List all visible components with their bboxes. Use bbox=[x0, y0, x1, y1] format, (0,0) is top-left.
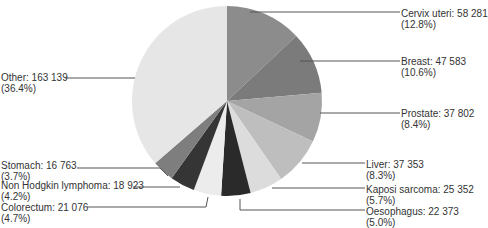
label-colorectum-value: Colorectum: 21 076 bbox=[1, 202, 88, 213]
leader-line bbox=[77, 168, 168, 176]
label-kaposi-sarcoma-pct: (5.7%) bbox=[366, 195, 474, 206]
leader-line bbox=[240, 199, 365, 210]
label-prostate: Prostate: 37 802(8.4%) bbox=[401, 108, 474, 130]
label-liver-pct: (8.3%) bbox=[366, 170, 424, 181]
pie-slices bbox=[132, 6, 322, 196]
label-stomach: Stomach: 16 763(3.7%) bbox=[1, 160, 77, 182]
label-non-hodgkin-lymphoma-pct: (4.2%) bbox=[1, 191, 144, 202]
label-cervix-uteri: Cervix uteri: 58 281(12.8%) bbox=[401, 8, 488, 30]
label-breast-pct: (10.6%) bbox=[401, 67, 466, 78]
label-breast: Breast: 47 583(10.6%) bbox=[401, 56, 466, 78]
label-non-hodgkin-lymphoma: Non Hodgkin lymphoma: 18 923(4.2%) bbox=[1, 180, 144, 202]
label-liver: Liver: 37 353(8.3%) bbox=[366, 159, 424, 181]
label-cervix-uteri-pct: (12.8%) bbox=[401, 19, 488, 30]
label-kaposi-sarcoma: Kaposi sarcoma: 25 352(5.7%) bbox=[366, 184, 474, 206]
label-cervix-uteri-value: Cervix uteri: 58 281 bbox=[401, 8, 488, 19]
label-stomach-value: Stomach: 16 763 bbox=[1, 160, 77, 171]
label-kaposi-sarcoma-value: Kaposi sarcoma: 25 352 bbox=[366, 184, 474, 195]
label-stomach-pct: (3.7%) bbox=[1, 171, 77, 182]
label-prostate-pct: (8.4%) bbox=[401, 119, 474, 130]
label-liver-value: Liver: 37 353 bbox=[366, 159, 424, 170]
label-oesophagus: Oesophagus: 22 373(5.0%) bbox=[366, 206, 459, 228]
label-colorectum: Colorectum: 21 076(4.7%) bbox=[1, 202, 88, 224]
label-prostate-value: Prostate: 37 802 bbox=[401, 108, 474, 119]
label-breast-value: Breast: 47 583 bbox=[401, 56, 466, 67]
label-colorectum-pct: (4.7%) bbox=[1, 213, 88, 224]
label-oesophagus-value: Oesophagus: 22 373 bbox=[366, 206, 459, 217]
label-other-pct: (36.4%) bbox=[1, 83, 68, 94]
label-other: Other: 163 139(36.4%) bbox=[1, 72, 68, 94]
label-other-value: Other: 163 139 bbox=[1, 72, 68, 83]
label-oesophagus-pct: (5.0%) bbox=[366, 217, 459, 228]
